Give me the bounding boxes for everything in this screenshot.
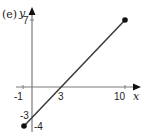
endpoint-end [122, 17, 128, 23]
y-tick-label-7: 7 [23, 15, 29, 26]
x-tick-label-neg1: -1 [14, 91, 23, 102]
x-tick-label-3: 3 [58, 91, 64, 102]
y-tick-label-neg3: -3 [20, 110, 29, 121]
panel-label: (e) [2, 8, 17, 21]
endpoint-start [21, 123, 27, 129]
x-tick-label-10: 10 [114, 91, 126, 102]
y-axis-arrow-icon [29, 7, 36, 15]
y-tick-label-neg4: -4 [34, 121, 43, 132]
data-line [24, 20, 125, 126]
x-axis-label: x [133, 90, 140, 103]
line-graph: (e) y x 7 -1 3 10 -3 -4 [0, 0, 144, 136]
